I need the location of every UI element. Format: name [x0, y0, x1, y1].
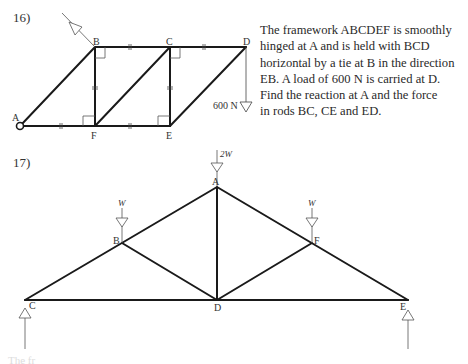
member-bd	[122, 243, 217, 300]
load-label-2w: 2W	[220, 149, 234, 159]
node-label-c: C	[29, 300, 36, 311]
node-label-a: A	[12, 112, 20, 123]
load-arrow-icon	[240, 47, 252, 112]
node-label-f: F	[91, 130, 97, 141]
node-label-e: E	[166, 130, 172, 141]
node-label-e: E	[400, 301, 406, 312]
framework-16	[21, 47, 246, 126]
load-label-w-f: W	[308, 198, 317, 208]
diagrams-canvas: 600 N A B C D E F 2W W W	[0, 0, 468, 364]
tie-arrow-icon	[62, 13, 95, 47]
support-arrows-17	[19, 308, 414, 349]
hinge-icon	[17, 123, 24, 130]
load-label-w-b: W	[118, 198, 127, 208]
support-arrow-icon	[19, 308, 31, 349]
load-label-600n: 600 N	[213, 100, 238, 111]
node-label-c: C	[166, 36, 173, 47]
node-label-b: B	[113, 235, 120, 246]
support-arrow-icon	[402, 310, 414, 349]
rod-ab	[21, 47, 95, 125]
truss-17	[25, 187, 408, 300]
rod-fc	[95, 47, 170, 126]
node-label-a: A	[212, 176, 220, 187]
node-label-b: B	[93, 36, 100, 47]
node-label-d: D	[243, 36, 250, 47]
rod-ed	[170, 47, 246, 126]
member-fd	[217, 243, 312, 300]
node-label-d: D	[214, 302, 221, 313]
clipped-footer-text: The fr	[8, 354, 35, 364]
node-label-f: F	[314, 235, 320, 246]
